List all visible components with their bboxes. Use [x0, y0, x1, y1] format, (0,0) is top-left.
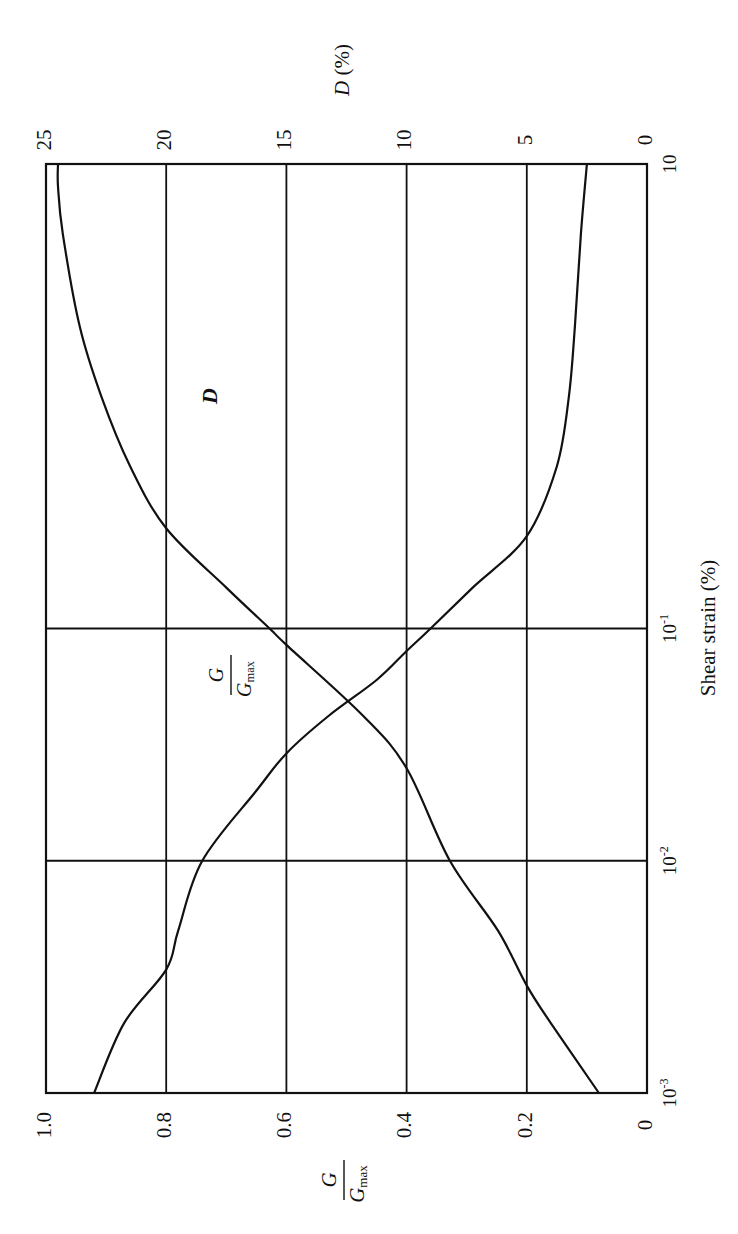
left-tick-label: 0.2	[513, 1112, 537, 1138]
left-tick-label: 1.0	[32, 1112, 56, 1138]
left-axis-title: GGmax	[317, 1160, 370, 1203]
svg-text:D (%): D (%)	[330, 44, 354, 97]
left-axis-tick-labels: 00.20.40.60.81.0	[32, 1111, 657, 1138]
svg-text:10-2: 10-2	[657, 846, 681, 875]
svg-text:10: 10	[659, 155, 680, 174]
right-tick-label: 25	[32, 130, 56, 151]
chart-svg: 00.20.40.60.81.0 0510152025 10-310-210-1…	[0, 0, 738, 1234]
damping-curve-annotation: D	[197, 388, 222, 405]
right-axis-tick-labels: 0510152025	[32, 130, 657, 151]
svg-text:10-3: 10-3	[657, 1079, 681, 1108]
axis-labels: Shear strain (%)D (%)GGmaxGGmaxD	[197, 44, 720, 1203]
right-tick-label: 0	[633, 135, 657, 146]
left-tick-label: 0	[633, 1120, 657, 1131]
left-tick-label: 0.4	[392, 1111, 416, 1138]
fraction-numerator: G	[317, 1172, 341, 1187]
grid-lines	[46, 164, 647, 1093]
svg-text:10-1: 10-1	[657, 614, 681, 643]
g-gmax-curve-annotation: GGmax	[205, 655, 257, 697]
strain-tick-label: 10-1	[657, 614, 681, 643]
left-tick-label: 0.6	[272, 1112, 296, 1138]
fraction-denominator: Gmax	[345, 1165, 370, 1203]
fraction-denominator: Gmax	[233, 660, 257, 697]
x-axis-title: Shear strain (%)	[696, 560, 720, 696]
strain-tick-label: 10	[659, 155, 680, 174]
right-tick-label: 20	[152, 130, 176, 151]
strain-tick-label: 10-3	[657, 1079, 681, 1108]
x-axis-tick-labels: 10-310-210-110	[657, 155, 681, 1108]
right-tick-label: 5	[513, 135, 537, 146]
right-axis-title: D (%)	[330, 44, 354, 97]
right-tick-label: 15	[272, 130, 296, 151]
left-tick-label: 0.8	[152, 1112, 176, 1138]
chart-figure: 00.20.40.60.81.0 0510152025 10-310-210-1…	[0, 0, 738, 1234]
fraction-numerator: G	[205, 667, 227, 682]
strain-tick-label: 10-2	[657, 846, 681, 875]
right-tick-label: 10	[392, 130, 416, 151]
